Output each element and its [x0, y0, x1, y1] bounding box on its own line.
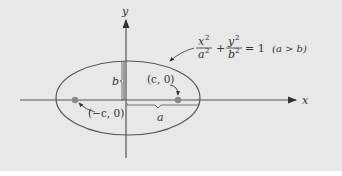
svg-text:2: 2: [235, 47, 239, 55]
svg-text:2: 2: [205, 34, 209, 42]
svg-text:(a > b): (a > b): [272, 43, 307, 54]
y-axis-label: y: [121, 5, 129, 18]
svg-text:y: y: [227, 35, 235, 48]
svg-text:x: x: [198, 35, 205, 48]
diagram-panel: x y b a (c, 0) (−c, 0) x 2 a 2 + y 2 b 2…: [0, 0, 342, 171]
major-axis-bracket: [127, 103, 199, 108]
x-axis-label: x: [302, 94, 309, 107]
svg-text:= 1: = 1: [245, 42, 265, 55]
svg-text:a: a: [198, 48, 205, 61]
focus-right-label: (c, 0): [147, 73, 174, 85]
svg-text:+: +: [216, 42, 225, 55]
svg-text:b: b: [228, 48, 235, 61]
ellipse-diagram: x y b a (c, 0) (−c, 0) x 2 a 2 + y 2 b 2…: [0, 0, 342, 176]
semi-major-label: a: [157, 111, 164, 124]
semi-minor-label: b: [112, 75, 119, 88]
svg-text:2: 2: [205, 47, 209, 55]
focus-left-label: (−c, 0): [88, 107, 124, 119]
equation: x 2 a 2 + y 2 b 2 = 1 (a > b): [196, 34, 307, 61]
equation-pointer: [170, 48, 194, 61]
focus-right: [175, 97, 181, 103]
svg-text:2: 2: [235, 34, 239, 42]
focus-left: [72, 97, 78, 103]
